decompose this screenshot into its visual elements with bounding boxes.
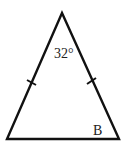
apex-angle-label: 32° [54,46,74,61]
base-angle-label: B [93,123,102,138]
triangle-outline [7,13,119,139]
triangle-diagram: 32° B [0,0,126,146]
